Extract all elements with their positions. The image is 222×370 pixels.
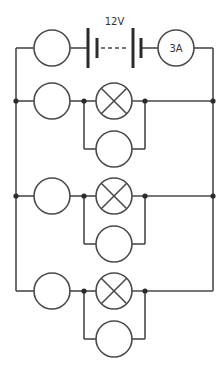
branch-resistor-symbol [96, 226, 132, 262]
junction-dot [81, 288, 86, 293]
junction-dot [210, 193, 215, 198]
battery-voltage-text: 12V [105, 16, 125, 27]
junction-dot [81, 98, 86, 103]
junction-dot [142, 193, 147, 198]
junction-dot [13, 193, 18, 198]
row-resistor-symbol [34, 83, 70, 119]
circuit-diagram: 12V3A 12V 3A [0, 0, 222, 370]
junction-dot [142, 98, 147, 103]
branch-resistor-symbol [96, 131, 132, 167]
junction-dot [210, 98, 215, 103]
junction-dot [142, 288, 147, 293]
row-resistor-symbol [34, 273, 70, 309]
junction-dot [81, 193, 86, 198]
row-resistor-symbol [34, 178, 70, 214]
circuit-svg: 12V3A [0, 0, 222, 370]
top-resistor-symbol [34, 30, 70, 66]
junction-dot [13, 98, 18, 103]
ammeter-reading-text: 3A [169, 43, 182, 54]
branch-resistor-symbol [96, 321, 132, 357]
